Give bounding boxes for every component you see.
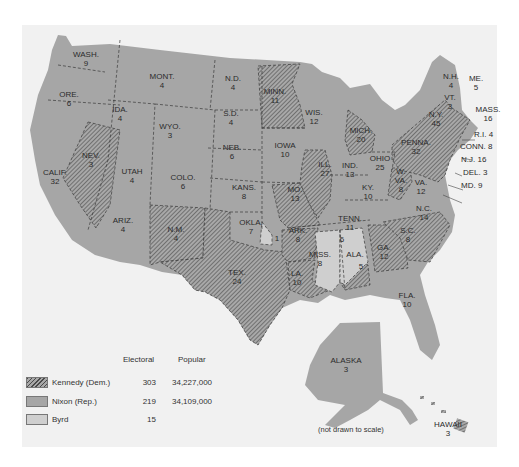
label-ala-kennedy: 5	[359, 262, 363, 271]
label-ore: ORE.6	[59, 90, 79, 108]
label-neb: NEB.6	[223, 143, 242, 161]
label-miss: MISS.8	[309, 250, 331, 268]
label-tenn: TENN. 11	[338, 214, 362, 232]
label-vt: VT.3	[444, 93, 456, 111]
label-wash: WASH.9	[73, 50, 99, 68]
hatched-swatch-icon	[26, 377, 48, 388]
label-wyo: WYO.3	[159, 122, 180, 140]
light-gray-swatch-icon	[26, 414, 48, 425]
label-nm: N.M.4	[168, 225, 185, 243]
legend-row-byrd: Byrd 15	[26, 414, 246, 426]
label-nev: NEV.3	[82, 151, 100, 169]
label-conn: CONN. 8	[460, 142, 492, 151]
label-ind: IND.13	[342, 161, 358, 179]
label-sd: S.D.4	[223, 109, 239, 127]
label-fla: FLA.10	[399, 291, 416, 309]
label-hawaii: HAWAII3	[434, 420, 462, 438]
label-ohio: OHIO25	[370, 154, 390, 172]
label-sc: S.C.8	[400, 226, 416, 244]
label-ariz: ARIZ.4	[113, 216, 133, 234]
label-me: ME.5	[469, 74, 483, 92]
label-ri: R.I. 4	[474, 130, 493, 139]
label-colo: COLO.6	[171, 173, 196, 191]
label-utah: UTAH4	[121, 167, 142, 185]
label-ala: ALA.	[346, 250, 363, 259]
label-wis: WIS.12	[305, 108, 322, 126]
label-okla: OKLA.7	[239, 218, 263, 236]
label-ga: GA.12	[377, 243, 391, 261]
label-ill: ILL.27	[318, 160, 331, 178]
label-iowa: IOWA10	[274, 141, 295, 159]
label-mich: MICH.20	[350, 126, 373, 144]
alaska	[305, 322, 418, 428]
label-la: LA.10	[291, 269, 303, 287]
label-ny: N.Y.45	[429, 110, 444, 128]
label-nj: N.J. 16	[461, 155, 486, 164]
gray-swatch-icon	[26, 396, 48, 407]
label-minn: MINN.11	[264, 87, 287, 105]
label-mass: MASS.16	[476, 105, 501, 123]
legend-row-nixon: Nixon (Rep.) 219 34,109,000	[26, 396, 246, 408]
label-nc: N.C.14	[416, 204, 432, 222]
label-ky: KY.10	[362, 183, 374, 201]
label-tex: TEX.24	[228, 268, 246, 286]
label-del: DEL. 3	[463, 168, 487, 177]
label-kans: KANS.8	[232, 183, 256, 201]
label-mont: MONT.4	[150, 72, 175, 90]
label-ark: ARK.8	[289, 226, 308, 244]
label-nd: N.D.4	[225, 74, 241, 92]
label-penna: PENNA.32	[401, 138, 431, 156]
label-alaska: ALASKA3	[330, 356, 361, 374]
label-calif: CALIF.32	[43, 168, 67, 186]
label-nh: N.H.4	[443, 72, 459, 90]
scale-note: (not drawn to scale)	[318, 425, 384, 434]
legend-header-popular: Popular	[178, 355, 206, 364]
label-wva: W.VA.8	[395, 167, 407, 194]
label-va: VA.12	[415, 178, 427, 196]
label-ida: IDA.4	[112, 105, 128, 123]
legend-header-electoral: Electoral	[123, 355, 154, 364]
label-md: MD. 9	[461, 181, 482, 190]
label-okla-byrd: 1	[275, 234, 279, 243]
label-mo: MO.13	[287, 185, 302, 203]
legend-row-kennedy: Kennedy (Dem.) 303 34,227,000	[26, 377, 246, 389]
label-ala-byrd: 6	[340, 235, 344, 244]
